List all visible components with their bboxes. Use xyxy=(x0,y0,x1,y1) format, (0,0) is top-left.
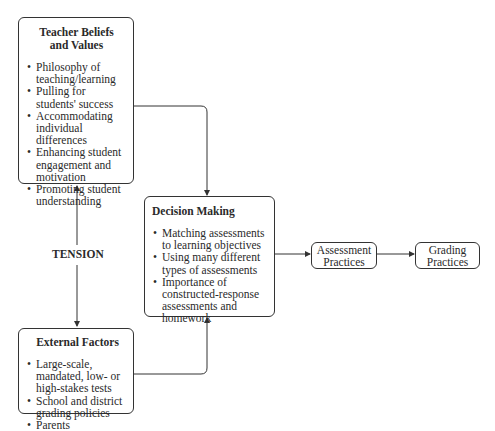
external-factors-title: External Factors xyxy=(26,336,129,349)
list-item: Importance of constructed-response asses… xyxy=(152,276,268,325)
list-item: Promoting student understanding xyxy=(26,183,127,207)
assessment-practices-box: Assessment Practices xyxy=(311,242,377,269)
decision-making-box: Decision Making Matching assessments to … xyxy=(144,196,275,317)
list-item: Parents xyxy=(26,419,129,431)
grading-practices-line1: Grading xyxy=(416,244,479,256)
assessment-practices-line1: Assessment xyxy=(312,244,376,256)
list-item: Enhancing student engagement and motivat… xyxy=(26,146,127,183)
decision-making-title: Decision Making xyxy=(152,205,268,218)
teacher-beliefs-list: Philosophy of teaching/learning Pulling … xyxy=(26,61,127,207)
teacher-beliefs-box: Teacher Beliefs and Values Philosophy of… xyxy=(18,17,134,184)
external-factors-box: External Factors Large-scale, mandated, … xyxy=(18,328,134,414)
list-item: Matching assessments to learning objecti… xyxy=(152,227,268,251)
grading-practices-box: Grading Practices xyxy=(415,242,480,269)
arrow-external-to-decision xyxy=(133,318,207,374)
assessment-practices-line2: Practices xyxy=(312,256,376,268)
list-item: Using many different types of assessment… xyxy=(152,251,268,275)
teacher-beliefs-title-1: Teacher Beliefs xyxy=(26,26,127,39)
list-item: Large-scale, mandated, low- or high-stak… xyxy=(26,358,129,395)
list-item: Philosophy of teaching/learning xyxy=(26,61,127,85)
list-item: Accommodating individual differences xyxy=(26,110,127,147)
arrow-teacher-to-decision xyxy=(133,106,207,195)
list-item: Pulling for students' success xyxy=(26,85,127,109)
teacher-beliefs-title-2: and Values xyxy=(26,39,127,52)
grading-practices-line2: Practices xyxy=(416,256,479,268)
tension-label: TENSION xyxy=(52,248,104,260)
decision-making-list: Matching assessments to learning objecti… xyxy=(152,227,268,325)
list-item: School and district grading policies xyxy=(26,395,129,419)
external-factors-list: Large-scale, mandated, low- or high-stak… xyxy=(26,358,129,431)
